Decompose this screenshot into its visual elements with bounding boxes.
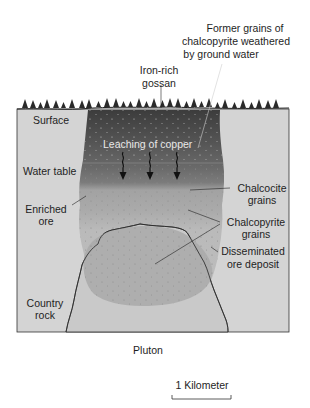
label-country-1: Country [27, 297, 65, 309]
label-pluton: Pluton [133, 344, 163, 356]
label-chalcocite-2: grains [248, 194, 277, 206]
label-chalcopyrite-1: Chalcopyrite [227, 216, 286, 228]
scale-bar [172, 395, 231, 399]
label-disseminated-1: Disseminated [221, 245, 285, 257]
label-disseminated-2: ore deposit [227, 258, 279, 270]
scale-bar-label: 1 Kilometer [175, 379, 229, 391]
label-country-2: rock [35, 309, 56, 321]
label-former-grains-1: Former grains of [206, 22, 283, 34]
label-former-grains-2: chalcopyrite weathered [182, 35, 290, 47]
label-surface: Surface [33, 114, 69, 126]
label-water-table: Water table [23, 165, 76, 177]
label-chalcocite-1: Chalcocite [237, 182, 286, 194]
label-gossan-2: gossan [142, 77, 176, 89]
tree-row [22, 98, 279, 108]
ore-deposit-diagram: Former grains of chalcopyrite weathered … [0, 0, 310, 408]
label-enriched-1: Enriched [25, 203, 67, 215]
label-leaching: Leaching of copper [103, 138, 193, 150]
label-chalcopyrite-2: grains [242, 228, 271, 240]
label-former-grains-3: by ground water [183, 48, 259, 60]
label-enriched-2: ore [38, 215, 53, 227]
label-gossan-1: Iron-rich [140, 64, 179, 76]
